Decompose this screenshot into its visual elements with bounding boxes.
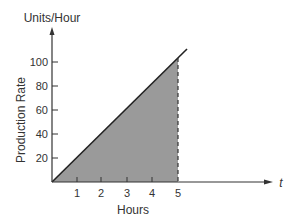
x-axis-arrow-icon xyxy=(264,180,273,185)
y-unit-label: Units/Hour xyxy=(24,11,81,25)
y-axis-title: Production Rate xyxy=(14,77,28,163)
y-tick-label: 40 xyxy=(36,128,48,140)
y-tick-label: 20 xyxy=(36,152,48,164)
y-tick-label: 100 xyxy=(30,56,48,68)
x-tick-label: 4 xyxy=(149,187,155,199)
x-axis-variable: t xyxy=(279,176,283,190)
y-ticks xyxy=(52,62,58,158)
chart: 20 40 60 80 100 1 2 3 4 5 Units/Hour Pro… xyxy=(0,0,292,221)
x-tick-label: 3 xyxy=(124,187,130,199)
x-tick-label: 1 xyxy=(74,187,80,199)
y-axis-arrow-icon xyxy=(50,27,55,35)
y-tick-label: 80 xyxy=(36,80,48,92)
x-axis-title: Hours xyxy=(117,203,149,217)
x-tick-label: 2 xyxy=(98,187,104,199)
y-tick-label: 60 xyxy=(36,104,48,116)
x-tick-label: 5 xyxy=(175,187,181,199)
